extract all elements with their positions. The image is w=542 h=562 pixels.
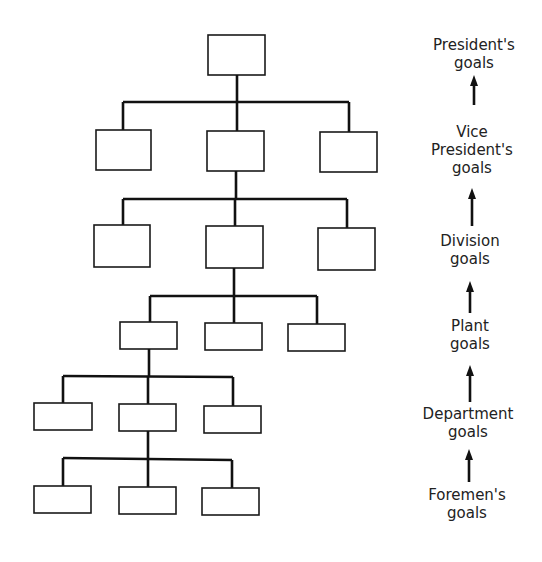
org-box-plant-2 xyxy=(205,323,262,350)
org-box-division-2 xyxy=(206,226,263,268)
goal-label-plant: Plant goals xyxy=(405,317,535,353)
org-box-division-1 xyxy=(94,225,150,267)
org-chart-tree xyxy=(0,0,542,562)
org-box-vp-1 xyxy=(96,130,151,170)
org-box-foreman-3 xyxy=(202,488,259,515)
org-box-department-1 xyxy=(34,403,92,430)
org-box-foreman-2 xyxy=(119,487,176,514)
goal-label-division: Division goals xyxy=(405,232,535,268)
goal-label-foremen: Foremen's goals xyxy=(402,486,532,522)
org-box-foreman-1 xyxy=(34,486,91,513)
up-arrow-icon xyxy=(470,75,478,105)
org-box-plant-1 xyxy=(120,322,177,349)
org-box-president xyxy=(208,35,265,75)
org-box-department-2 xyxy=(119,404,176,431)
org-box-vp-2 xyxy=(207,131,264,171)
org-box-department-3 xyxy=(204,406,261,433)
goal-label-department: Department goals xyxy=(403,405,533,441)
up-arrow-icon xyxy=(465,449,473,482)
goal-label-president: President's goals xyxy=(409,36,539,72)
org-box-division-3 xyxy=(318,228,375,270)
org-box-plant-3 xyxy=(288,324,345,351)
org-box-vp-3 xyxy=(320,132,377,172)
up-arrow-icon xyxy=(468,188,476,226)
up-arrow-icon xyxy=(466,281,474,313)
goal-label-vice-president: Vice President's goals xyxy=(407,123,537,177)
up-arrow-icon xyxy=(466,365,474,402)
